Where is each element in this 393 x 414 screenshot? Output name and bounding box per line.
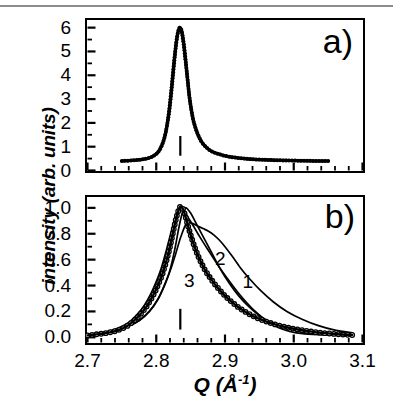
curve-number-3: 3 bbox=[184, 270, 195, 291]
y-tick-label: 3 bbox=[60, 88, 71, 110]
panel-b-y-ticklabels: 0.00.20.40.60.81.0 bbox=[0, 195, 78, 345]
y-tick-label: 4 bbox=[60, 64, 71, 86]
y-tick-label: 2 bbox=[60, 112, 71, 134]
curve-number-1: 1 bbox=[242, 271, 253, 292]
x-tick-label: 3.0 bbox=[281, 350, 307, 372]
curve-number-2: 2 bbox=[215, 248, 226, 269]
panel-b: 123 b) bbox=[85, 195, 365, 345]
y-tick-label: 0.8 bbox=[45, 223, 71, 245]
panel-b-tag: b) bbox=[325, 199, 355, 233]
y-tick-label: 0.2 bbox=[45, 300, 71, 322]
x-tick-label: 2.7 bbox=[74, 350, 100, 372]
y-tick-label: 1 bbox=[60, 136, 71, 158]
y-tick-label: 0.4 bbox=[45, 275, 71, 297]
panel-a-y-ticklabels: 0123456 bbox=[0, 18, 78, 173]
y-tick-label: 6 bbox=[60, 17, 71, 39]
y-tick-label: 0 bbox=[60, 160, 71, 182]
y-tick-label: 0.6 bbox=[45, 249, 71, 271]
x-tick-label: 2.9 bbox=[212, 350, 238, 372]
panel-a-tag: a) bbox=[323, 24, 353, 58]
panel-a: a) bbox=[85, 18, 365, 173]
x-axis-exponent: -1 bbox=[238, 372, 250, 387]
x-axis-symbol: Q bbox=[194, 373, 210, 396]
x-axis-unit-close: ) bbox=[249, 373, 256, 396]
y-tick-label: 1.0 bbox=[45, 197, 71, 219]
y-tick-label: 5 bbox=[60, 40, 71, 62]
y-tick-label: 0.0 bbox=[45, 326, 71, 348]
x-axis-label: Q (Å-1) bbox=[85, 372, 365, 397]
figure-root: intensity (arb. units) a) 0123456 123 b)… bbox=[0, 0, 393, 414]
x-axis-unit-open: (Å bbox=[216, 373, 238, 396]
x-tick-label: 2.8 bbox=[143, 350, 169, 372]
x-tick-label: 3.1 bbox=[349, 350, 375, 372]
page-rule-divider bbox=[0, 5, 393, 7]
panel-b-plot: 123 bbox=[85, 195, 365, 345]
